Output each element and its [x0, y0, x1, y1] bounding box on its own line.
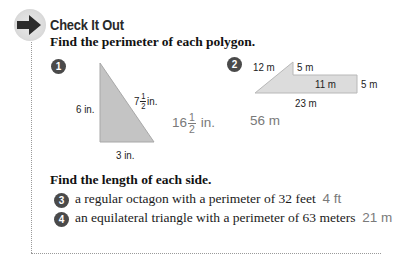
polygon-right-label: 5 m: [361, 78, 377, 90]
problem-number-badge: 4: [54, 212, 69, 227]
problem-number-badge: 2: [227, 57, 242, 72]
dotted-border-left: [31, 42, 32, 253]
answer-2: 56 m: [250, 113, 280, 128]
polygon-bottom-label: 23 m: [295, 97, 317, 109]
answer-1: 1612 in.: [172, 112, 215, 134]
problem-4-text: an equilateral triangle with a perimeter…: [75, 210, 392, 226]
triangle-left-label: 6 in.: [76, 103, 94, 115]
dotted-border-bottom: [31, 253, 381, 254]
instruction-side-length: Find the length of each side.: [50, 172, 211, 188]
problem-number-badge: 3: [54, 193, 69, 208]
triangle-hypotenuse-label: 712in.: [134, 92, 157, 111]
arrow-right-icon: [14, 9, 46, 41]
polygon-inner-label: 11 m: [315, 78, 336, 90]
instruction-perimeter: Find the perimeter of each polygon.: [50, 34, 255, 50]
problem-3-text: a regular octagon with a perimeter of 32…: [75, 191, 341, 207]
answer-3: 4 ft: [322, 191, 341, 206]
polygon-slant-label: 12 m: [253, 61, 275, 73]
answer-4: 21 m: [362, 210, 392, 225]
problem-number-badge: 1: [51, 59, 66, 74]
polygon-top-label: 5 m: [297, 61, 313, 73]
triangle-bottom-label: 3 in.: [116, 149, 134, 161]
section-title: Check It Out: [50, 16, 124, 33]
